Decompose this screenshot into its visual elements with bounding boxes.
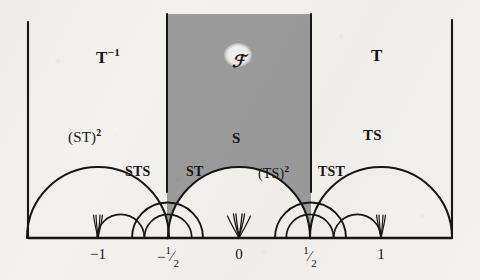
tick-value-text: 0 [235, 246, 243, 262]
domain-label-st-squared: (ST)2 [68, 128, 101, 145]
axis-tick-label-1minusover-2: 1⁄2 [303, 247, 316, 268]
tick-fraction: 1⁄2 [303, 246, 316, 267]
axis-tick-label-0: 0 [235, 247, 243, 262]
tick-sign: − [157, 249, 165, 265]
axis-tick-label-minus1-over-2: −1⁄2 [157, 247, 179, 268]
domain-label-st: ST [186, 165, 204, 179]
shaded-fundamental-domain [167, 14, 311, 240]
domain-label-t-inverse: T−1 [96, 47, 120, 66]
domain-label-text: S [232, 130, 241, 146]
domain-label-text: T [371, 46, 383, 65]
fraction-denominator: 2 [173, 257, 179, 269]
tick-fraction: 1⁄2 [166, 246, 179, 267]
domain-label-ts-squared: (TS)2 [258, 165, 289, 181]
domain-label-text: TST [318, 164, 345, 179]
domain-label-exponent: −1 [108, 46, 120, 58]
fraction-numerator: 1 [166, 244, 172, 256]
domain-label-tst: TST [318, 165, 345, 179]
domain-label-exponent: 2 [284, 164, 289, 174]
tick-value-text: −1 [90, 246, 106, 262]
domain-label-exponent: 2 [96, 127, 101, 138]
domain-label-text: ST [186, 164, 204, 179]
axis-tick-label-1: 1 [377, 247, 385, 262]
domain-label-text: T [96, 48, 108, 67]
domain-label-s: S [232, 131, 241, 146]
axis-tick-label-minus1: −1 [90, 247, 106, 262]
script-f-symbol: ℱ [232, 53, 245, 70]
domain-label-text: (TS) [258, 166, 284, 181]
fraction-denominator: 2 [311, 257, 317, 269]
domain-label-sts: STS [125, 165, 151, 179]
modular-tessellation-figure: T−1ℱT(ST)2STSSTSST(TS)2TST −1−1⁄201⁄21 [0, 0, 480, 280]
tick-value-text: 1 [377, 246, 385, 262]
domain-label-text: STS [125, 164, 151, 179]
domain-label-text: (ST) [68, 129, 96, 145]
domain-label-t: T [371, 47, 383, 64]
fraction-numerator: 1 [303, 244, 309, 256]
domain-label-ts: TS [363, 128, 382, 143]
domain-label-text: TS [363, 127, 382, 143]
